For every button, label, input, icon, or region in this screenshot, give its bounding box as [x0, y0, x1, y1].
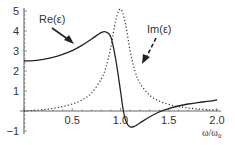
y-tick-label: 1 — [13, 85, 19, 97]
re-epsilon-curve — [24, 32, 217, 128]
im-epsilon-label: Im(ε) — [147, 23, 171, 35]
y-tick-label: 2 — [13, 65, 19, 77]
re-arrow-icon — [52, 28, 74, 44]
permittivity-chart: −1123450.51.01.52.0 Re(ε) Im(ε) ω/ω0 — [0, 0, 235, 145]
y-tick-label: 5 — [13, 5, 19, 17]
y-tick-label: 4 — [13, 25, 19, 37]
x-tick-label: 2.0 — [209, 114, 224, 126]
x-tick-label: 1.5 — [161, 114, 176, 126]
y-tick-label: −1 — [6, 125, 19, 137]
re-epsilon-label: Re(ε) — [39, 13, 65, 25]
y-tick-label: 3 — [13, 45, 19, 57]
x-axis-title: ω/ω0 — [202, 127, 222, 140]
x-tick-label: 0.5 — [65, 114, 80, 126]
im-arrow-icon — [142, 38, 156, 64]
